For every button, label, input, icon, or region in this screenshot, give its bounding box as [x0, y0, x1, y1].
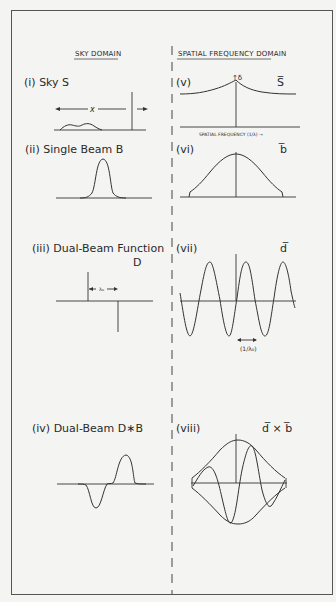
panel-ii-label: (ii) Single Beam B [25, 143, 123, 156]
panel-vi-symbol: b̅ [278, 143, 287, 156]
sky-plot: x [54, 92, 148, 130]
panel-viii-symbol: d̅ × b̅ [262, 422, 292, 435]
panel-viii-label: (viii) [176, 422, 200, 435]
panel-vii-symbol: d̅ [280, 242, 289, 255]
panel-vi-label: (vi) [176, 143, 194, 156]
panel-vii-label: (vii) [176, 242, 197, 255]
panel-v-label: (v) [176, 76, 191, 89]
panel-iii-label: (iii) Dual-Beam Function [32, 242, 164, 255]
panel-i-label: (i) Sky S [24, 76, 69, 89]
x-axis-label: x [89, 105, 95, 114]
single-beam-plot [56, 159, 152, 198]
separation-label: λ₀ [99, 286, 104, 292]
panel-iii-symbol: D [133, 256, 141, 269]
sky-domain-header: SKY DOMAIN [75, 50, 121, 58]
beam-transfer-plot [180, 152, 296, 197]
dual-beam-transfer-plot: (1/λ₀) [180, 254, 296, 352]
product-transfer-plot [191, 434, 287, 524]
panel-v-symbol: S̅ [277, 76, 284, 89]
dual-beam-convolution-plot [57, 455, 154, 508]
spatial-frequency-axis-label: SPATIAL FREQUENCY (1/λ) → [199, 132, 263, 137]
panel-iv-label: (iv) Dual-Beam D∗B [32, 422, 143, 435]
period-label: (1/λ₀) [240, 345, 256, 352]
dual-beam-function-plot: λ₀ [56, 272, 153, 332]
frequency-domain-header: SPATIAL FREQUENCY DOMAIN [178, 50, 286, 58]
dual-beam-diagram: SKY DOMAIN SPATIAL FREQUENCY DOMAIN (i) … [0, 0, 336, 602]
